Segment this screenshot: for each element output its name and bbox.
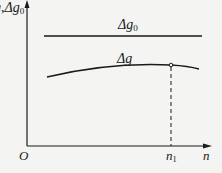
y-axis-label-sub: 0 xyxy=(20,6,25,16)
n1-label-sub: 1 xyxy=(173,154,177,164)
delta-g0-label-sub: 0 xyxy=(133,23,138,33)
y-axis-label-text: g,Δg xyxy=(0,0,20,15)
max-point-marker xyxy=(169,63,173,67)
delta-g0-label: Δg0 xyxy=(118,18,138,33)
diagram-canvas xyxy=(0,0,222,173)
delta-g-label-text: Δg xyxy=(117,51,132,66)
y-axis-label: g,Δg0 xyxy=(0,1,24,16)
delta-g-label: Δg xyxy=(117,52,132,66)
n1-label: n1 xyxy=(166,149,177,164)
delta-g-curve xyxy=(47,65,199,78)
origin-label: O xyxy=(19,149,28,162)
y-axis-arrow-icon xyxy=(25,0,30,8)
delta-g0-label-text: Δg xyxy=(118,17,133,32)
x-axis-label: n xyxy=(203,149,210,162)
